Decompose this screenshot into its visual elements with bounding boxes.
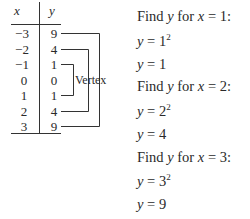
step-result: y = 1 [137, 55, 166, 73]
find-line: Find y for x = 3: [137, 148, 231, 166]
step-result: y = 4 [137, 125, 166, 143]
find-line: Find y for x = 2: [137, 77, 231, 95]
bracket-inner [61, 65, 74, 96]
find-line: Find y for x = 1: [137, 7, 231, 25]
step-square: y = 12 [137, 32, 171, 50]
step-result: y = 9 [137, 195, 166, 213]
vertex-label: Vertex [75, 73, 106, 88]
step-square: y = 22 [137, 102, 171, 120]
step-square: y = 32 [137, 172, 171, 190]
symmetry-brackets [0, 0, 120, 140]
